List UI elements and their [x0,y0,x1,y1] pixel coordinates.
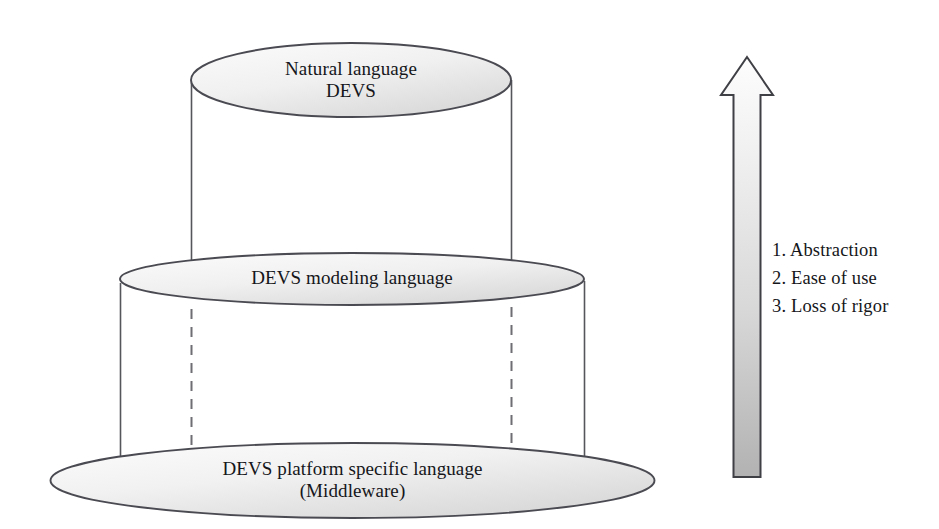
layer-ellipse-natural-language-devs[interactable] [191,43,511,117]
layer-ellipse-devs-modeling-language[interactable] [120,253,584,305]
layer-ellipse-devs-platform-specific-language[interactable] [51,443,655,518]
arrow-legend-list: 1. Abstraction 2. Ease of use 3. Loss of… [772,236,932,320]
arrow-legend-item-loss-of-rigor: 3. Loss of rigor [772,292,932,320]
arrow-legend-item-abstraction: 1. Abstraction [772,236,932,264]
diagram-canvas: Natural language DEVS DEVS modeling lang… [0,0,939,529]
arrow-legend-item-ease-of-use: 2. Ease of use [772,264,932,292]
upward-arrow-shape[interactable] [721,57,773,477]
